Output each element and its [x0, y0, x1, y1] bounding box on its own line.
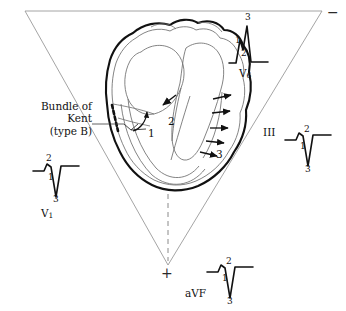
v6-annotation-1: 1: [235, 35, 241, 45]
lead-v6-base: V: [239, 67, 247, 79]
v6-annotation-2: 2: [241, 48, 247, 58]
iii-annotation-1: 1: [300, 141, 306, 151]
lead-label-v1: V1: [41, 207, 53, 221]
v6-annotation-3: 3: [245, 12, 251, 22]
avf-annotation-1: 1: [222, 273, 228, 283]
lead-label-iii: III: [263, 126, 275, 138]
figure-canvas: Bundle of Kent (type B) 1 2 3 − + 1 2 3 …: [0, 0, 346, 311]
heart-step-number-2: 2: [168, 115, 175, 127]
v1-annotation-1: 1: [48, 172, 54, 182]
kent-line-3: (type B): [6, 125, 92, 137]
lead-v1-subscript: 1: [49, 211, 54, 220]
v1-annotation-3: 3: [53, 194, 59, 204]
ecg-trace-avf: [207, 265, 253, 298]
iii-annotation-3: 3: [305, 164, 311, 174]
lead-label-avf: aVF: [185, 287, 206, 299]
lead-v6-subscript: 6: [247, 71, 252, 80]
v1-waveform-path: [33, 164, 79, 197]
v1-annotation-2: 2: [46, 153, 52, 163]
lead-v1-base: V: [41, 207, 49, 219]
kent-line-2: Kent: [6, 112, 92, 124]
avf-annotation-3: 3: [227, 296, 233, 306]
lead-label-v6: V6: [239, 67, 251, 81]
heart-step-number-3: 3: [216, 148, 223, 160]
avf-waveform-path: [207, 265, 253, 298]
bundle-of-kent-annotation: Bundle of Kent (type B): [6, 100, 92, 137]
ecg-trace-v1: [33, 164, 79, 197]
triangle-negative-pole: −: [327, 4, 339, 20]
avf-annotation-2: 2: [226, 256, 232, 266]
iii-waveform-path: [285, 133, 331, 166]
diagram-vector-layer: [0, 0, 346, 311]
heart-step-number-1: 1: [148, 127, 155, 139]
triangle-positive-pole: +: [161, 265, 173, 281]
ecg-trace-iii: [285, 133, 331, 166]
iii-annotation-2: 2: [304, 124, 310, 134]
kent-line-1: Bundle of: [6, 100, 92, 112]
